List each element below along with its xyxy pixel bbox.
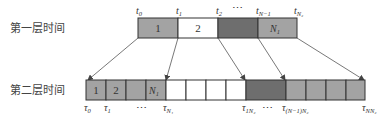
arrow-t1 — [166, 38, 178, 80]
tick-tau-n1: τN₁ — [163, 102, 173, 114]
top-row: 1 2 N1 — [138, 18, 297, 38]
bottom-cell-10 — [286, 80, 306, 100]
tick-tau0: τ0 — [84, 102, 92, 114]
bottom-row-label: 第二层时间 — [10, 83, 65, 97]
bottom-row-ticks: τ0 τ1 ⋯ τN₁ τ1N₂ ⋯ τ(N−1)N₂ τNN₂ — [84, 102, 377, 115]
top-ellipsis: ⋯ — [232, 2, 243, 14]
bottom-cell-12 — [326, 80, 346, 100]
bottom-ellipsis-2: ⋯ — [262, 102, 273, 114]
top-cell-2-label: 2 — [195, 22, 201, 34]
bottom-cell-6 — [186, 80, 206, 100]
tick-tn2: tN₂ — [294, 5, 304, 17]
arrow-t0 — [88, 38, 138, 80]
bottom-cell-11 — [306, 80, 326, 100]
bottom-cell-dark — [246, 80, 286, 100]
time-hierarchy-diagram: 第一层时间 第二层时间 1 2 N1 t0 t1 t2 ⋯ tN−1 tN₂ — [0, 0, 385, 128]
top-cell-3 — [218, 18, 258, 38]
top-row-label: 第一层时间 — [10, 21, 65, 35]
tick-t2: t2 — [216, 5, 223, 17]
arrow-tn-1 — [258, 38, 285, 80]
bottom-cell-1-label: 1 — [93, 84, 99, 96]
bottom-cell-8 — [226, 80, 246, 100]
tick-tn-1: tN−1 — [256, 5, 271, 17]
tick-tau1: τ1 — [104, 102, 111, 114]
bottom-cell-3 — [126, 80, 146, 100]
top-cell-1-label: 1 — [155, 22, 161, 34]
bottom-ellipsis-1: ⋯ — [136, 102, 147, 114]
tick-tau-nn2: τNN₂ — [362, 102, 377, 114]
arrow-tn2 — [297, 38, 364, 80]
tick-t0: t0 — [136, 5, 143, 17]
bottom-cell-7 — [206, 80, 226, 100]
tick-t1: t1 — [176, 5, 182, 17]
bottom-cell-13 — [346, 80, 365, 100]
tick-tau-n-1n2: τ(N−1)N₂ — [282, 102, 309, 115]
arrow-t2 — [218, 38, 245, 80]
top-row-ticks: t0 t1 t2 ⋯ tN−1 tN₂ — [136, 2, 304, 17]
bottom-cell-2-label: 2 — [113, 84, 119, 96]
tick-tau-1n2: τ1N₂ — [242, 102, 256, 114]
mapping-arrows — [88, 38, 364, 80]
bottom-cell-5 — [166, 80, 186, 100]
bottom-row — [86, 80, 365, 100]
